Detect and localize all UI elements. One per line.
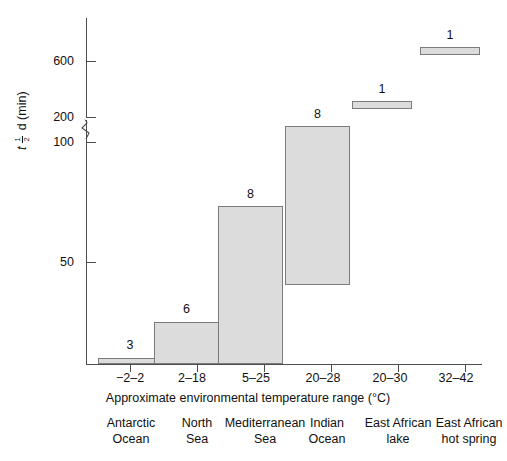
x-axis-title: Approximate environmental temperature ra… (0, 391, 496, 405)
category-label-line: East African (404, 416, 507, 432)
x-range-label: 5–25 (224, 372, 288, 385)
y-axis-tick (87, 61, 96, 62)
y-axis-tick-label: 50 (30, 256, 74, 269)
y-axis-break-icon (78, 118, 98, 140)
bar-count-label: 8 (218, 188, 283, 201)
y-axis-tick (87, 142, 96, 143)
y-axis-line (86, 18, 87, 364)
y-axis-title-denominator: 2 (23, 136, 31, 142)
range-bar (154, 322, 219, 364)
y-axis-title-fraction: 12 (14, 136, 30, 142)
x-axis-line (86, 364, 482, 365)
category-label: East Africanhot spring (404, 416, 507, 447)
x-range-label: −2–2 (98, 372, 162, 385)
range-bar (285, 126, 350, 285)
bar-count-label: 8 (285, 108, 350, 121)
range-bar (98, 358, 162, 364)
y-axis-tick (87, 262, 96, 263)
bar-count-label: 6 (154, 303, 219, 316)
y-axis-tick-label: 600 (30, 55, 74, 68)
y-axis-tick (87, 117, 96, 118)
y-axis-title-symbol: t (15, 147, 29, 150)
category-label-line: hot spring (404, 432, 507, 448)
y-axis-tick-label: 100 (30, 136, 74, 149)
range-bar (420, 47, 480, 55)
y-axis-title: t12d (min) (14, 10, 30, 150)
x-range-label: 20–30 (358, 372, 422, 385)
bar-count-label: 1 (352, 83, 412, 96)
x-range-label: 2–18 (160, 372, 224, 385)
range-bar (218, 206, 283, 364)
x-range-label: 32–42 (424, 372, 488, 385)
bar-count-label: 3 (98, 339, 162, 352)
y-axis-tick-label: 200 (30, 111, 74, 124)
y-axis-title-rest: d (min) (15, 91, 29, 130)
x-range-label: 20–28 (291, 372, 355, 385)
bar-count-label: 1 (420, 29, 480, 42)
range-bar (352, 101, 412, 109)
